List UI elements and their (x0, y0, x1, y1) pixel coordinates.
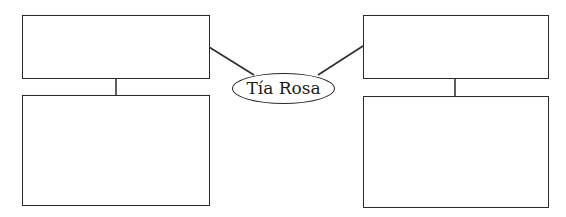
connector-left-to-center (209, 47, 254, 75)
center-node-ellipse: Tía Rosa (232, 73, 335, 104)
center-node-label: Tía Rosa (246, 80, 320, 97)
connector-right-to-center (318, 46, 363, 75)
right-bottom-box (363, 96, 549, 208)
left-top-box (22, 15, 210, 79)
concept-map-diagram: Tía Rosa (0, 0, 566, 217)
left-bottom-box (22, 95, 210, 206)
right-top-box (363, 15, 549, 79)
